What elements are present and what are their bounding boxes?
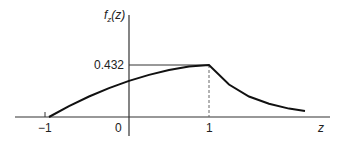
y-tick-label-0432: 0.432 <box>94 58 124 72</box>
x-axis-label: z <box>318 121 324 135</box>
ylabel-arg: (z) <box>111 8 125 22</box>
x-tick-label-minus1: −1 <box>38 121 52 135</box>
density-curve <box>49 65 305 117</box>
x-tick-label-1: 1 <box>206 121 213 135</box>
y-axis-label: fz(z) <box>104 8 125 24</box>
x-tick-label-0: 0 <box>115 121 122 135</box>
